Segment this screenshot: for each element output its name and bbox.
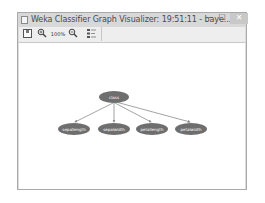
save-button[interactable] [22,28,33,40]
layout-controls-button[interactable] [85,28,97,40]
close-button[interactable]: ✕ [230,13,248,24]
node-label: sepallength [62,127,86,132]
node-petalwidth[interactable]: petalwidth [175,123,207,135]
bayes-net-graph: class sepallength sepalwidth petallength… [19,43,245,189]
window-title: Weka Classifier Graph Visualizer: 19:51:… [31,14,231,26]
minimize-button[interactable]: – [205,13,215,24]
node-label: petalwidth [180,127,202,132]
edge-class-petallength [115,103,151,122]
app-icon [21,16,28,24]
toolbar: 100% [19,27,245,43]
node-label: petallength [141,127,164,132]
zoom-out-icon [68,28,78,38]
edge-class-sepallength [75,103,113,122]
node-label: class [109,95,119,100]
zoom-in-icon [37,28,47,38]
layout-controls-icon [86,28,97,39]
node-sepalwidth[interactable]: sepalwidth [98,123,130,135]
save-icon [23,29,32,38]
zoom-in-button[interactable] [36,28,48,40]
zoom-out-button[interactable] [67,28,79,40]
toolbar-group: 100% [19,27,102,41]
graph-canvas[interactable]: class sepallength sepalwidth petallength… [19,43,245,189]
edge-class-petalwidth [116,102,190,122]
node-sepallength[interactable]: sepallength [58,123,90,135]
graph-visualizer-window: Weka Classifier Graph Visualizer: 19:51:… [17,12,247,190]
node-class[interactable]: class [99,91,129,103]
node-petallength[interactable]: petallength [136,123,168,135]
edges [75,102,190,122]
node-label: sepalwidth [103,127,125,132]
title-bar[interactable]: Weka Classifier Graph Visualizer: 19:51:… [18,13,246,27]
zoom-100-button[interactable]: 100% [50,28,66,40]
maximize-button[interactable]: ☐ [216,13,228,24]
